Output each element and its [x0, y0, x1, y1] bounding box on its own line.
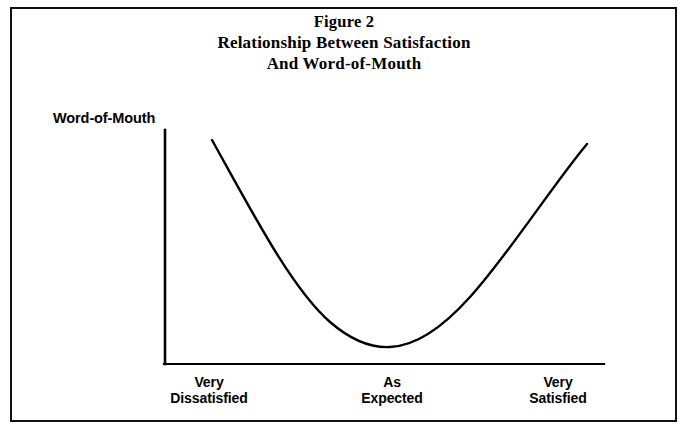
- x-axis-label-very-satisfied: Very Satisfied: [529, 374, 586, 406]
- x-axis-label-very-satisfied-line1: Very: [529, 374, 586, 390]
- plot-area: [0, 0, 688, 431]
- x-axis-label-as-expected: As Expected: [361, 374, 422, 406]
- satisfaction-word-of-mouth-curve: [212, 140, 587, 347]
- x-axis-label-very-dissatisfied-line2: Dissatisfied: [170, 390, 247, 406]
- x-axis-label-very-satisfied-line2: Satisfied: [529, 390, 586, 406]
- x-axis-label-very-dissatisfied-line1: Very: [170, 374, 247, 390]
- x-axis-label-very-dissatisfied: Very Dissatisfied: [170, 374, 247, 406]
- x-axis-label-as-expected-line2: Expected: [361, 390, 422, 406]
- figure-screenshot: Figure 2 Relationship Between Satisfacti…: [0, 0, 688, 431]
- x-axis-label-as-expected-line1: As: [361, 374, 422, 390]
